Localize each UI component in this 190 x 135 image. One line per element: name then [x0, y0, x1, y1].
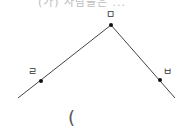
label-right: ㅂ: [163, 67, 172, 77]
point-right: [158, 78, 162, 82]
point-apex: [109, 23, 113, 27]
answer-parenthesis: (: [68, 109, 75, 127]
point-left: [39, 79, 43, 83]
label-apex: ㅁ: [106, 10, 115, 20]
left-line: [18, 25, 111, 98]
right-line: [111, 25, 175, 98]
label-left: ㄹ: [28, 67, 37, 77]
